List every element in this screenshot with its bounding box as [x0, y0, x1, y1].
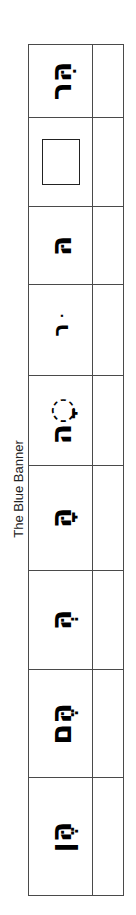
- table-row: ◌ָה: [29, 375, 123, 465]
- prompt-cell: ּר: [29, 285, 93, 375]
- table-row: הֶּן: [29, 777, 123, 895]
- answer-cell[interactable]: [93, 571, 123, 669]
- prompt-cell: הִּר: [29, 45, 93, 117]
- hebrew-syllable: הָּ: [46, 508, 76, 529]
- answer-cell[interactable]: [93, 466, 123, 570]
- side-title: The Blue Banner: [11, 440, 26, 538]
- table-row: הּ: [29, 206, 123, 284]
- prompt-cell: הְּ: [29, 571, 93, 669]
- hebrew-syllable: הְּ: [46, 610, 76, 631]
- hebrew-syllable: הֶּן: [46, 821, 76, 852]
- prompt-cell: הֶּן: [29, 778, 93, 895]
- hebrew-syllable: הּ: [46, 235, 76, 256]
- table-row: הְּ: [29, 570, 123, 669]
- answer-cell[interactable]: [93, 285, 123, 375]
- hebrew-syllable: ◌ָה: [46, 397, 76, 444]
- table-row: [29, 117, 123, 206]
- answer-cell[interactable]: [93, 670, 123, 777]
- answer-cell[interactable]: [93, 118, 123, 206]
- table-row: הָּ: [29, 465, 123, 570]
- prompt-cell: הּ: [29, 207, 93, 284]
- prompt-cell: הֶּם: [29, 670, 93, 777]
- table-row: הֶּם: [29, 669, 123, 777]
- answer-cell[interactable]: [93, 376, 123, 465]
- answer-cell[interactable]: [93, 207, 123, 284]
- answer-cell[interactable]: [93, 778, 123, 895]
- prompt-cell: ◌ָה: [29, 376, 93, 465]
- empty-box: [42, 139, 80, 185]
- table-row: הִּר: [29, 45, 123, 117]
- prompt-cell: הָּ: [29, 466, 93, 570]
- worksheet-table: הִּר הּ ּר ◌ָה הָּ הְּ: [28, 44, 124, 896]
- prompt-cell: [29, 118, 93, 206]
- table-row: ּר: [29, 284, 123, 375]
- answer-cell[interactable]: [93, 45, 123, 117]
- hebrew-syllable: הִּר: [46, 62, 76, 101]
- hebrew-syllable: הֶּם: [46, 703, 76, 745]
- hebrew-syllable: ּר: [50, 323, 72, 336]
